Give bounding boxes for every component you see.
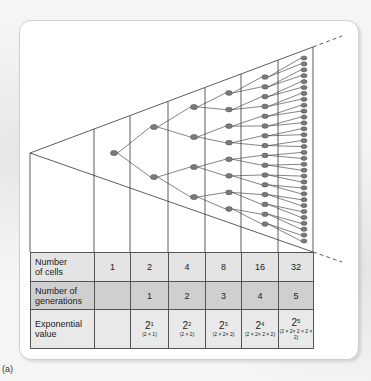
cell-node	[301, 56, 307, 60]
cell-value: 1	[95, 253, 131, 282]
cell-node	[301, 121, 307, 125]
cell-node	[226, 140, 233, 145]
cell-count-table: Number of cells 1 2 4 8 16 32 Number of …	[30, 252, 314, 349]
cell-node	[262, 212, 268, 217]
triangle-outline	[30, 36, 342, 262]
label-line: generations	[35, 296, 82, 306]
cell-node	[301, 133, 307, 137]
upper-extension-dashed	[313, 36, 342, 47]
row-number-of-generations: Number of generations 1 2 3 4 5	[31, 282, 314, 310]
cell-node	[226, 91, 233, 96]
cell-node	[301, 233, 307, 237]
cell-node	[301, 74, 307, 78]
column-dividers	[30, 47, 313, 252]
label-line: Exponential	[35, 319, 82, 329]
cell-node	[262, 222, 268, 227]
cell-node	[301, 239, 307, 243]
cell-node	[301, 91, 307, 95]
exp-value: 24 (2 × 2× 2 × 2)	[242, 310, 279, 349]
exp-expansion: (2 × 2× 2 × 2)	[242, 331, 278, 337]
cell-value: 3	[206, 282, 242, 310]
cell-value: 5	[279, 282, 314, 310]
cell-node	[301, 162, 307, 166]
cell-node	[262, 94, 268, 99]
cell-node	[226, 157, 233, 162]
cell-node	[262, 163, 268, 168]
cell-node	[301, 144, 307, 148]
cell-node	[226, 124, 233, 129]
cell-node	[262, 183, 268, 188]
cell-node	[262, 202, 268, 207]
cell-value: 4	[242, 282, 279, 310]
cell-node	[301, 109, 307, 113]
exp-power: 2	[188, 321, 191, 327]
cell-node	[301, 115, 307, 119]
cell-node	[301, 180, 307, 184]
exp-value: 22 (2 × 2)	[169, 310, 206, 349]
cell-nodes	[110, 56, 307, 243]
cell-node	[301, 221, 307, 225]
cell-value: 1	[131, 282, 169, 310]
row-label: Number of generations	[31, 282, 95, 310]
cell-node	[301, 62, 307, 66]
cell-node	[262, 143, 268, 148]
cell-node	[301, 150, 307, 154]
cell-node	[226, 173, 233, 178]
exp-expansion: (2 × 1)	[131, 331, 168, 337]
cell-node	[226, 190, 233, 195]
exp-power: 3	[225, 321, 228, 327]
cell-node	[226, 107, 233, 112]
cell-node	[262, 85, 268, 90]
exp-expansion: (2 × 2× 2 × 2 × 2)	[279, 328, 313, 340]
cell-node	[262, 134, 268, 139]
cell-node	[301, 227, 307, 231]
cell-node	[301, 68, 307, 72]
cell-node	[190, 194, 197, 199]
cell-value: 2	[169, 282, 206, 310]
cell-node	[301, 186, 307, 190]
label-line: Number	[35, 257, 67, 267]
cell-node	[301, 209, 307, 213]
cell-node	[150, 174, 157, 179]
cell-node	[262, 153, 268, 158]
exp-power: 4	[261, 321, 264, 327]
cell-node	[226, 207, 233, 212]
cell-value: 4	[169, 253, 206, 282]
cell-value: 8	[206, 253, 242, 282]
row-number-of-cells: Number of cells 1 2 4 8 16 32	[31, 253, 314, 282]
label-line: value	[35, 329, 57, 339]
cell-node	[301, 156, 307, 160]
cell-node	[301, 215, 307, 219]
cell-node	[262, 192, 268, 197]
cell-node	[262, 124, 268, 129]
label-line: of cells	[35, 267, 63, 277]
cell-node	[301, 97, 307, 101]
cell-node	[301, 174, 307, 178]
exp-expansion: (2 × 2× 2)	[206, 331, 241, 337]
cell-value: 2	[131, 253, 169, 282]
exp-power: 1	[151, 321, 154, 327]
cell-node	[301, 203, 307, 207]
lower-extension-dashed	[313, 252, 342, 262]
cell-value: 16	[242, 253, 279, 282]
cell-node	[190, 104, 197, 109]
cell-node	[190, 134, 197, 139]
cell-node	[301, 198, 307, 202]
cell-node	[301, 168, 307, 172]
exp-power: 5	[297, 318, 300, 324]
row-label: Number of cells	[31, 253, 95, 282]
cell-node	[301, 80, 307, 84]
cell-node	[262, 114, 268, 119]
exp-value: 25 (2 × 2× 2 × 2 × 2)	[279, 310, 314, 349]
cell-node	[301, 103, 307, 107]
cell-node	[262, 104, 268, 109]
cell-node	[301, 139, 307, 143]
cell-node	[262, 75, 268, 80]
cell-node	[301, 192, 307, 196]
cell-node	[262, 173, 268, 178]
figure-caption: (a)	[2, 364, 13, 374]
cell-value	[95, 282, 131, 310]
cell-node	[110, 150, 117, 155]
exp-value: 23 (2 × 2× 2)	[206, 310, 242, 349]
cell-node	[190, 164, 197, 169]
